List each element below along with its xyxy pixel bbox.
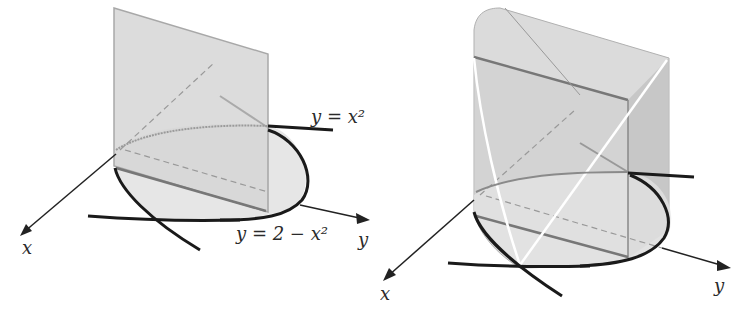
label-x-axis: x	[380, 283, 390, 304]
label-y-axis: y	[713, 275, 725, 296]
left-figure: y = x² y = 2 − x² x y	[0, 0, 380, 318]
label-y-axis: y	[357, 229, 369, 250]
x-axis	[24, 154, 116, 232]
y-axis-arrowhead	[356, 213, 370, 224]
y-axis	[300, 205, 364, 219]
right-figure: x y	[380, 0, 741, 318]
left-diagram-canvas: y = x² y = 2 − x² x y	[0, 0, 380, 318]
label-x-axis: x	[22, 237, 32, 258]
y-axis-arrowhead	[717, 260, 731, 271]
label-upper-curve: y = x²	[310, 106, 365, 127]
y-axis	[662, 248, 724, 266]
label-lower-curve: y = 2 − x²	[235, 223, 328, 244]
right-diagram-canvas: x y	[380, 0, 741, 318]
